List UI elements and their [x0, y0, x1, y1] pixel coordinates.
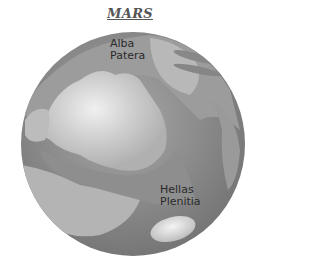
label-alba-patera: Alba Patera	[110, 38, 145, 62]
label-hellas-plenitia: Hellas Plenitia	[160, 184, 201, 208]
label-line: Plenitia	[160, 196, 201, 208]
label-line: Patera	[110, 50, 145, 62]
